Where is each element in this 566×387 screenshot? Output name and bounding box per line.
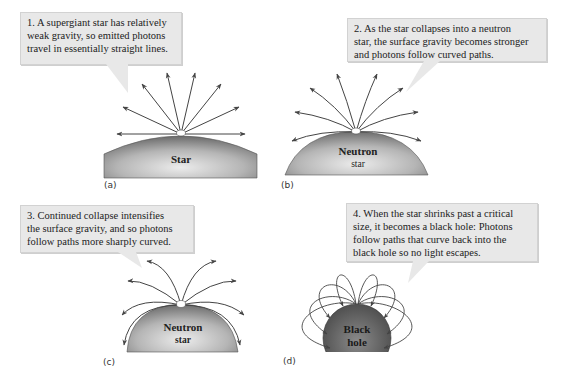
callout-c-tail (118, 252, 142, 268)
emission-point (177, 130, 186, 136)
straight-photon-arrows (117, 73, 245, 134)
panel-label-d: (d) (283, 356, 296, 366)
panel-b: Neutron star (285, 74, 428, 175)
black-hole-label-line1: Black (344, 323, 372, 335)
callout-d-tail (408, 261, 429, 283)
diagram-canvas: Star Neutron star (0, 0, 566, 387)
panel-c: Neutron star (122, 261, 244, 352)
panel-label-a: (a) (104, 180, 117, 190)
panel-label-b: (b) (281, 180, 294, 190)
callout-b-tail (406, 61, 440, 92)
panel-d: Black hole (302, 275, 412, 372)
panel-label-c: (c) (103, 357, 115, 367)
neutron-star-label-line1: Neutron (339, 145, 378, 157)
neutron-star-label-line2: star (351, 159, 366, 169)
neutron-star-label-line2: star (175, 335, 192, 345)
star-label: Star (171, 153, 191, 165)
black-hole-label-line2: hole (347, 336, 367, 348)
emission-point (352, 128, 361, 134)
emission-point (177, 301, 186, 308)
callout-a-tail (106, 64, 128, 93)
neutron-star-label-line1: Neutron (164, 321, 203, 333)
